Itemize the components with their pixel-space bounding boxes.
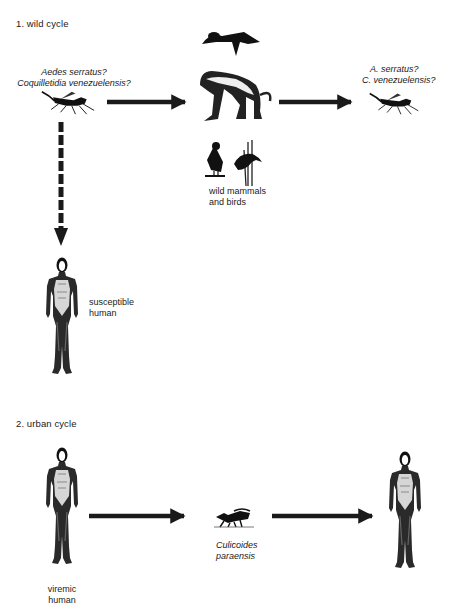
urban-cycle-title: 2. urban cycle xyxy=(16,418,77,429)
heron-in-reeds-icon xyxy=(232,140,266,188)
hosts-line2: and birds xyxy=(209,197,266,208)
human-figure-icon xyxy=(42,256,82,376)
bird-icon xyxy=(203,140,227,180)
vector-target-line2: C. venezuelensis? xyxy=(362,75,452,86)
hosts-label: wild mammals and birds xyxy=(209,186,266,208)
vector-target-label: A. serratus? C. venezuelensis? xyxy=(362,64,452,86)
monkey-icon xyxy=(196,65,278,123)
sloth-icon xyxy=(200,22,264,58)
culicoides-line2: paraensis xyxy=(216,551,258,562)
culicoides-label: Culicoides paraensis xyxy=(216,540,258,562)
human-figure-icon xyxy=(42,446,82,566)
susceptible-human-label: susceptible human xyxy=(89,297,134,319)
culicoides-line1: Culicoides xyxy=(216,540,258,551)
viremic-human-line1: viremic xyxy=(40,584,84,595)
susceptible-human-line1: susceptible xyxy=(89,297,134,308)
mosquito-icon xyxy=(368,90,420,116)
viremic-human-line2: human xyxy=(40,595,84,606)
viremic-human-label: viremic human xyxy=(40,584,84,606)
vector-target-line1: A. serratus? xyxy=(362,64,452,75)
susceptible-human-line2: human xyxy=(89,308,134,319)
human-figure-icon xyxy=(385,450,425,570)
hosts-line1: wild mammals xyxy=(209,186,266,197)
midge-icon xyxy=(214,507,254,529)
